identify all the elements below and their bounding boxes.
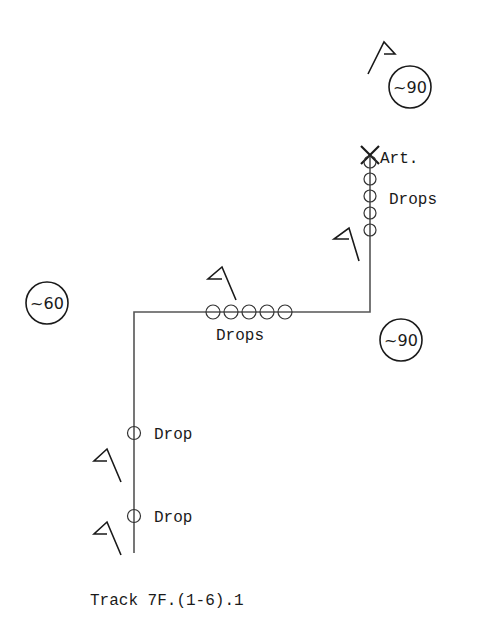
bearing-top: ~90 [389,66,431,108]
drops-middle-label: Drops [216,327,264,345]
drops-upper-label: Drops [389,191,437,209]
flag-lower-1-icon [94,449,121,482]
bearing-right-label: ~90 [384,331,418,350]
flag-lower-2-icon [94,522,121,555]
bearing-top-label: ~90 [393,78,427,97]
drop-lower-1-label: Drop [154,426,192,444]
flag-upper-right-icon [334,228,359,261]
flag-top-icon [368,42,395,74]
article-label: Art. [380,150,418,168]
diagram-caption: Track 7F.(1-6).1 [90,592,244,610]
track-line [134,155,370,553]
bearing-left: ~60 [26,282,68,324]
flag-middle-icon [208,267,236,300]
drop-lower-2-label: Drop [154,509,192,527]
track-diagram: Art. Drops Drops Drop Drop ~90 ~60 ~90 [0,0,493,618]
bearing-right: ~90 [380,319,422,361]
bearing-left-label: ~60 [30,294,64,313]
